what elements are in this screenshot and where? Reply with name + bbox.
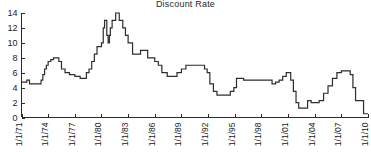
y-tick-label: 6 [12, 68, 17, 78]
x-tick-label: 1/1/04 [307, 122, 317, 146]
y-axis-tick-labels: 02468101214 [7, 8, 17, 123]
y-axis-tick-marks [22, 14, 26, 119]
x-tick-label: 1/1/74 [40, 122, 50, 146]
y-tick-label: 10 [7, 38, 17, 48]
y-tick-label: 14 [7, 8, 17, 18]
y-tick-label: 4 [12, 83, 17, 93]
x-tick-label: 1/1/07 [333, 122, 343, 146]
y-tick-label: 12 [7, 23, 17, 33]
x-tick-label: 1/1/71 [14, 122, 24, 146]
chart-plot-area: 02468101214 1/1/711/1/741/1/771/1/801/1/… [0, 0, 371, 152]
y-tick-label: 2 [12, 98, 17, 108]
x-tick-label: 1/1/95 [227, 122, 237, 146]
x-axis-tick-marks [23, 114, 369, 118]
y-tick-label: 8 [12, 53, 17, 63]
discount-rate-chart: Discount Rate 02468101214 1/1/711/1/741/… [0, 0, 371, 152]
x-tick-label: 1/1/86 [147, 122, 157, 146]
x-tick-label: 1/1/98 [253, 122, 263, 146]
x-tick-label: 1/1/01 [280, 122, 290, 146]
x-axis-tick-labels: 1/1/711/1/741/1/771/1/801/1/831/1/861/1/… [14, 122, 371, 146]
x-tick-label: 1/1/10 [360, 122, 370, 146]
data-series-line [22, 13, 369, 114]
x-tick-label: 1/1/77 [67, 122, 77, 146]
x-tick-label: 1/1/80 [93, 122, 103, 146]
x-tick-label: 1/1/89 [173, 122, 183, 146]
x-tick-label: 1/1/83 [120, 122, 130, 146]
y-tick-label: 0 [12, 113, 17, 123]
x-tick-label: 1/1/92 [200, 122, 210, 146]
